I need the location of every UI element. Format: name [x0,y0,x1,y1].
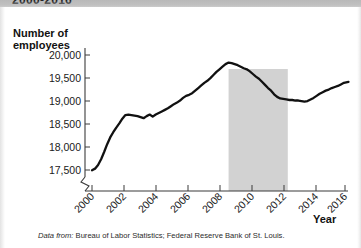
plot-area: 17,500 18,000 18,500 19,000 19,500 20,00… [0,7,361,248]
employment-series-line [92,63,348,171]
y-tick-label: 17,500 [49,164,81,176]
y-tick-label: 19,500 [49,72,81,84]
figure-caption: Data from: Bureau of Labor Statistics; F… [38,231,358,240]
y-tick-label: 18,000 [49,141,81,153]
title-band-fade [0,0,361,7]
x-tick-label: 2004 [135,190,160,215]
line-chart: 17,500 18,000 18,500 19,000 19,500 20,00… [0,7,361,248]
x-tick-label: 2006 [167,190,192,215]
x-tick-label: 2010 [231,190,256,215]
x-tick-label: 2012 [263,190,288,215]
figure-title-band: 2000-2016 [0,0,361,7]
y-axis-break-icon [81,177,89,191]
recession-band [229,69,288,191]
x-tick-label: 2002 [103,190,128,215]
caption-body: Bureau of Labor Statistics; Federal Rese… [73,231,284,240]
y-tick-label: 18,500 [49,118,81,130]
x-tick-label: 2008 [199,190,224,215]
x-tick-label: 2016 [324,190,349,215]
figure-container: 2000-2016 17,500 18,000 18,500 19,00 [0,0,361,248]
x-tick-label: 2000 [71,190,96,215]
y-tick-label: 19,000 [49,95,81,107]
x-axis-title: Year [313,213,337,225]
x-tick-label: 2014 [295,190,320,215]
caption-prefix: Data from: [38,231,73,240]
y-axis-title-line2: employees [13,39,70,51]
y-axis-title-line1: Number of [13,27,68,39]
